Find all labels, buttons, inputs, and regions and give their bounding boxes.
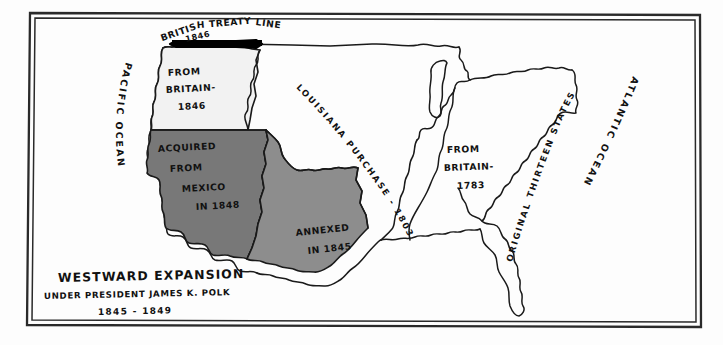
british-treaty-line-bar [170, 40, 262, 48]
oregon-label-line3: 1846 [178, 100, 207, 112]
mexican-cession-label-line2: FROM [170, 161, 203, 174]
oregon-label-line1: FROM [168, 65, 201, 78]
map-canvas: BRITISH TREATY LINE 1846 PACIFIC OCEAN A… [0, 0, 723, 345]
from-britain-1783-label-line1: FROM [447, 143, 480, 155]
from-britain-1783-label-line3: 1783 [457, 179, 485, 191]
from-britain-1783-label-line2: BRITAIN- [444, 160, 494, 173]
mexican-cession-label-line3: MEXICO [182, 181, 227, 194]
mexican-cession-label-line4: IN 1848 [196, 199, 241, 212]
westward-expansion-map: BRITISH TREATY LINE 1846 PACIFIC OCEAN A… [0, 0, 723, 345]
map-date-range: 1845 - 1849 [98, 305, 173, 317]
